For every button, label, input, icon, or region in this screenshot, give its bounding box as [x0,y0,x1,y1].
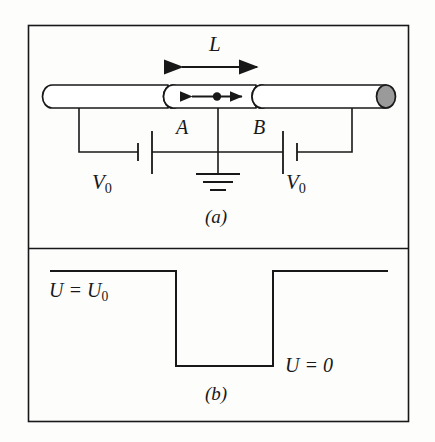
well-potential-label: U = 0 [285,355,333,375]
battery-left-label: V0 [92,172,112,195]
length-label: L [209,34,221,55]
panel-a-caption: (a) [205,207,227,226]
barrier-potential-subscript: 0 [101,289,108,304]
barrier-potential-label: U = U0 [49,280,108,303]
right-cylinder [252,85,396,108]
electron-dot [213,92,221,100]
battery-left-symbol: V [92,170,105,194]
battery-right-subscript: 0 [299,180,306,196]
barrier-potential-expression: U = U [49,279,101,301]
electrode-b-label: B [253,117,265,137]
battery-right-symbol: V [286,170,299,194]
electrode-a-label: A [176,117,188,137]
panel-b-caption: (b) [205,384,227,403]
right-circuit-branch [218,108,352,174]
left-cylinder [43,85,169,108]
battery-right-label: V0 [286,172,306,195]
battery-left-subscript: 0 [105,180,112,196]
right-cylinder-end-cap [377,85,396,108]
ground-icon [196,174,240,190]
left-circuit-branch [79,108,218,174]
physics-figure: L A B V0 V0 (a) U = U0 U = 0 (b) [0,0,435,442]
center-ground-branch [196,108,240,190]
